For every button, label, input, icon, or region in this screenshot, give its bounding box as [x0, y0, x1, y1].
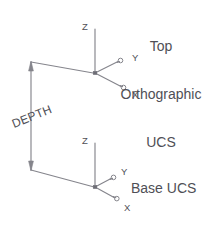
- depth-label: DEPTH: [10, 102, 54, 131]
- ucs-base-label-z: Z: [82, 135, 88, 146]
- extension-line-top: [31, 62, 96, 74]
- caption-top-orthographic-ucs: Top Orthographic UCS: [106, 6, 216, 182]
- caption-base-ucs: Base UCS: [131, 180, 196, 196]
- ucs-base-axis-x: [95, 187, 115, 198]
- caption-top-line-3: UCS: [106, 134, 216, 150]
- ucs-depth-diagram: DEPTH Z Y X: [0, 0, 224, 227]
- dimension-extension-lines: [31, 62, 96, 188]
- dimension-arrow-down: [29, 161, 34, 171]
- caption-top-line-1: Top: [106, 38, 216, 54]
- ucs-base-label-x: X: [124, 202, 131, 213]
- ucs-top-label-z: Z: [82, 21, 88, 32]
- extension-line-bottom: [31, 170, 96, 188]
- caption-top-line-2: Orthographic: [106, 86, 216, 102]
- ucs-top-origin-marker: [93, 71, 97, 74]
- ucs-base-origin-marker: [93, 185, 97, 188]
